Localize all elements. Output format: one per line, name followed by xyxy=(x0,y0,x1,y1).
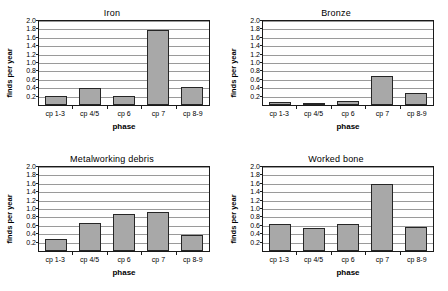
y-axis-title: finds per year xyxy=(2,0,16,146)
bar-slot xyxy=(365,21,399,105)
y-tick-mark xyxy=(36,242,38,243)
x-tick-mark xyxy=(107,252,108,255)
bar[interactable] xyxy=(405,93,426,105)
x-tick-mark xyxy=(141,252,142,255)
y-tick-label: 1.2 xyxy=(22,50,36,57)
bar-slot xyxy=(263,21,297,105)
bar-slot xyxy=(399,21,433,105)
bar-slot xyxy=(73,21,107,105)
y-tick-mark xyxy=(260,183,262,184)
bar-slot xyxy=(331,167,365,251)
bar[interactable] xyxy=(405,227,426,251)
y-tick-mark xyxy=(36,216,38,217)
bar[interactable] xyxy=(181,235,202,251)
y-tick-label: 2.0 xyxy=(22,163,36,170)
bar[interactable] xyxy=(303,228,324,251)
y-tick-label: 0.6 xyxy=(22,221,36,228)
y-tick-mark xyxy=(260,174,262,175)
y-tick-label: 0.6 xyxy=(22,75,36,82)
bar-slot xyxy=(331,21,365,105)
x-tick-labels: cp 1-3cp 4/5cp 6cp 7cp 8-9 xyxy=(262,110,434,117)
y-tick-mark xyxy=(260,45,262,46)
y-tick-mark xyxy=(260,79,262,80)
y-tick-label: 1.0 xyxy=(246,205,260,212)
y-tick-mark xyxy=(260,200,262,201)
x-tick-label: cp 7 xyxy=(141,256,175,263)
bar[interactable] xyxy=(181,87,202,105)
y-tick-label: 0.4 xyxy=(22,84,36,91)
y-tick-mark xyxy=(260,20,262,21)
y-tick-mark xyxy=(36,70,38,71)
y-tick-label: 1.8 xyxy=(246,25,260,32)
y-axis-title: finds per year xyxy=(226,146,240,291)
y-tick-label: 0.2 xyxy=(22,238,36,245)
x-tick-mark xyxy=(296,252,297,255)
bar-slot xyxy=(141,21,175,105)
bar[interactable] xyxy=(371,184,392,251)
bar[interactable] xyxy=(79,223,100,251)
x-tick-mark xyxy=(365,106,366,109)
x-axis-title: phase xyxy=(38,268,210,277)
bar-slot xyxy=(107,167,141,251)
x-tick-mark xyxy=(141,106,142,109)
y-tick-mark xyxy=(260,216,262,217)
bar-slot xyxy=(263,167,297,251)
y-tick-mark xyxy=(260,37,262,38)
bar[interactable] xyxy=(269,224,290,251)
bar[interactable] xyxy=(371,76,392,105)
y-tick-mark xyxy=(36,225,38,226)
bar-slot xyxy=(175,167,209,251)
bar[interactable] xyxy=(337,224,358,251)
y-tick-label: 1.6 xyxy=(22,33,36,40)
bar-slot xyxy=(39,167,73,251)
bar-slot xyxy=(365,167,399,251)
chart-panel-bronze: Bronze finds per year cp 1-3cp 4/5cp 6cp… xyxy=(224,0,448,146)
bar[interactable] xyxy=(113,214,134,251)
x-tick-mark xyxy=(331,252,332,255)
x-tick-label: cp 1-3 xyxy=(262,256,296,263)
y-tick-mark xyxy=(260,87,262,88)
y-tick-mark xyxy=(36,191,38,192)
y-tick-mark xyxy=(260,96,262,97)
bar[interactable] xyxy=(113,96,134,105)
x-tick-label: cp 6 xyxy=(107,110,141,117)
y-tick-mark xyxy=(260,28,262,29)
y-tick-label: 0.4 xyxy=(246,84,260,91)
bar[interactable] xyxy=(269,102,290,105)
y-tick-label: 0.2 xyxy=(246,238,260,245)
y-tick-label: 2.0 xyxy=(22,17,36,24)
bar[interactable] xyxy=(79,88,100,105)
x-tick-label: cp 6 xyxy=(331,110,365,117)
y-tick-label: 0.6 xyxy=(246,75,260,82)
x-tick-label: cp 4/5 xyxy=(296,256,330,263)
x-tick-mark xyxy=(176,252,177,255)
y-tick-mark xyxy=(36,233,38,234)
x-tick-label: cp 8-9 xyxy=(400,110,434,117)
x-tick-label: cp 4/5 xyxy=(72,110,106,117)
bar-slot xyxy=(297,167,331,251)
y-tick-mark xyxy=(36,45,38,46)
y-tick-label: 1.8 xyxy=(246,171,260,178)
figure-grid: Iron finds per year cp 1-3cp 4/5cp 6cp 7… xyxy=(0,0,448,291)
bar-slot xyxy=(297,21,331,105)
bar[interactable] xyxy=(45,96,66,105)
y-tick-mark xyxy=(36,20,38,21)
bar[interactable] xyxy=(303,103,324,105)
y-tick-mark xyxy=(36,37,38,38)
y-tick-mark xyxy=(260,191,262,192)
y-tick-label: 1.8 xyxy=(22,171,36,178)
bar-series xyxy=(39,21,209,105)
y-tick-mark xyxy=(260,233,262,234)
bar[interactable] xyxy=(147,212,168,251)
x-tick-labels: cp 1-3cp 4/5cp 6cp 7cp 8-9 xyxy=(38,256,210,263)
x-axis-title: phase xyxy=(262,268,434,277)
x-axis-title: phase xyxy=(38,122,210,131)
y-tick-mark xyxy=(36,28,38,29)
plot-area xyxy=(38,166,210,252)
y-tick-mark xyxy=(260,62,262,63)
bar[interactable] xyxy=(147,30,168,105)
x-tick-label: cp 7 xyxy=(141,110,175,117)
bar[interactable] xyxy=(45,239,66,251)
bar-slot xyxy=(399,167,433,251)
bar[interactable] xyxy=(337,101,358,105)
